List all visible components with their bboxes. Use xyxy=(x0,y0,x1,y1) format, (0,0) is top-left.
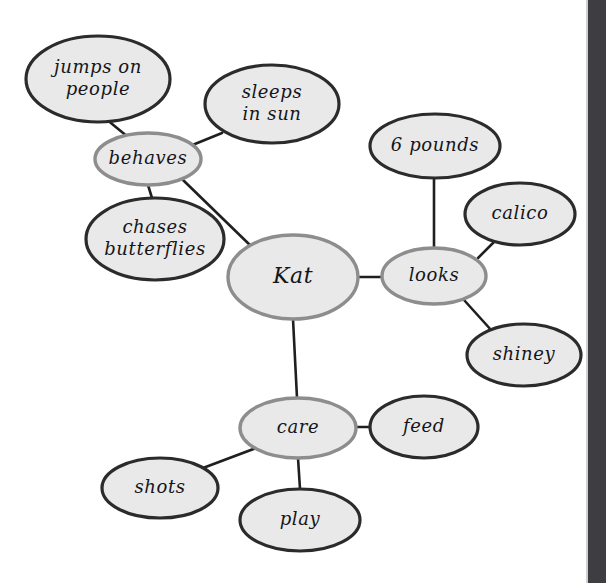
node-kat[interactable]: Kat xyxy=(228,235,358,319)
node-label-sixpounds: 6 pounds xyxy=(391,134,479,155)
node-calico[interactable]: calico xyxy=(465,183,575,245)
node-label-kat: Kat xyxy=(272,263,313,288)
node-label-jumps-line-2: people xyxy=(66,78,131,99)
node-shots[interactable]: shots xyxy=(102,458,218,518)
edge-care-to-play xyxy=(298,458,300,489)
node-label-chases-line-2: butterflies xyxy=(104,238,206,259)
node-label-chases-line-1: chases xyxy=(122,216,187,237)
node-label-calico: calico xyxy=(492,202,549,223)
node-play[interactable]: play xyxy=(240,489,360,551)
node-label-care: care xyxy=(277,416,319,437)
node-label-feed: feed xyxy=(401,415,445,436)
edge-care-to-shots xyxy=(203,448,256,468)
node-looks[interactable]: looks xyxy=(382,248,486,304)
edge-behaves-to-chases xyxy=(148,185,152,198)
node-label-behaves: behaves xyxy=(109,147,188,168)
concept-map-svg: Katbehaveslookscarejumps onpeoplesleepsi… xyxy=(0,0,606,583)
node-label-sleeps-line-2: in sun xyxy=(242,103,301,124)
edge-kat-to-care xyxy=(293,319,297,398)
edge-behaves-to-sleeps xyxy=(190,133,222,146)
node-behaves[interactable]: behaves xyxy=(95,133,201,185)
node-label-shots: shots xyxy=(134,476,185,497)
node-jumps[interactable]: jumps onpeople xyxy=(26,36,170,122)
node-label-looks: looks xyxy=(409,264,460,285)
node-care[interactable]: care xyxy=(240,398,356,458)
node-label-shiney: shiney xyxy=(493,343,556,364)
nodes-layer: Katbehaveslookscarejumps onpeoplesleepsi… xyxy=(26,36,581,551)
node-sleeps[interactable]: sleepsin sun xyxy=(205,65,339,143)
node-label-sleeps-line-1: sleeps xyxy=(242,81,303,102)
diagram-canvas: Katbehaveslookscarejumps onpeoplesleepsi… xyxy=(0,0,606,583)
node-shiney[interactable]: shiney xyxy=(467,324,581,386)
node-feed[interactable]: feed xyxy=(370,396,478,458)
node-chases[interactable]: chasesbutterflies xyxy=(86,198,224,280)
right-dark-strip xyxy=(588,0,606,583)
edge-looks-to-shiney xyxy=(464,300,492,331)
node-label-play: play xyxy=(280,508,321,529)
node-sixpounds[interactable]: 6 pounds xyxy=(370,114,500,178)
node-label-jumps-line-1: jumps on xyxy=(50,56,142,77)
